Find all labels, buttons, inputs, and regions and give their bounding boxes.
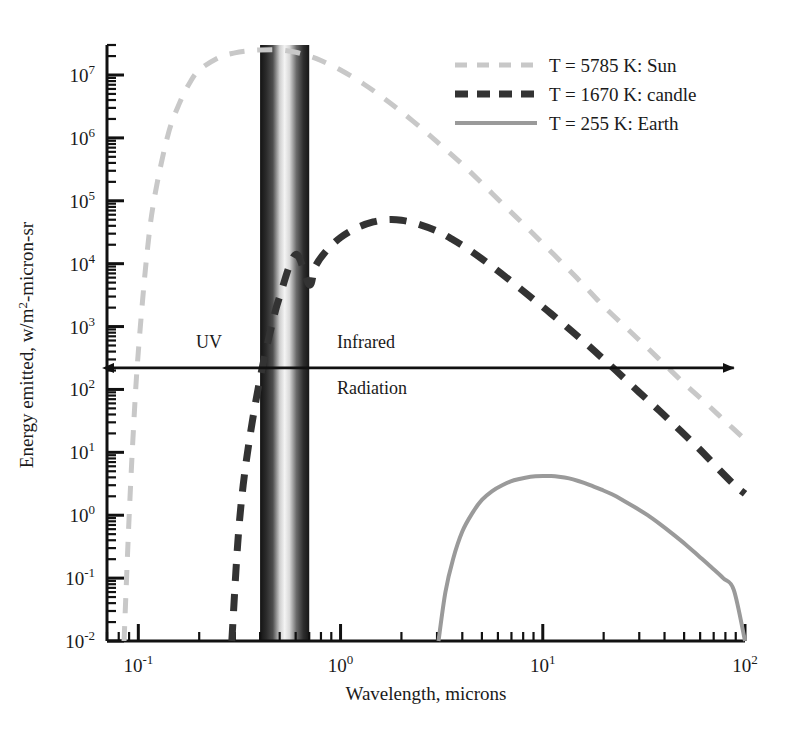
x-axis-title: Wavelength, microns [346,683,507,704]
radiation-label: Radiation [337,378,407,398]
legend-entry-label: T = 255 K: Earth [549,113,679,134]
infrared-label: Infrared [337,332,395,352]
chart-canvas: 10-210-1100101102103104105106107 10-1100… [0,0,797,743]
y-axis-title: Energy emitted, w/m2-micron-sr [15,221,37,468]
chart-background [0,0,797,743]
svg-text:Energy emitted, w/m2-micron-sr: Energy emitted, w/m2-micron-sr [15,221,37,468]
legend-entry-label: T = 1670 K: candle [549,84,697,105]
blackbody-radiation-chart: 10-210-1100101102103104105106107 10-1100… [0,0,797,743]
legend-entry-label: T = 5785 K: Sun [549,55,677,76]
uv-label: UV [196,332,222,352]
